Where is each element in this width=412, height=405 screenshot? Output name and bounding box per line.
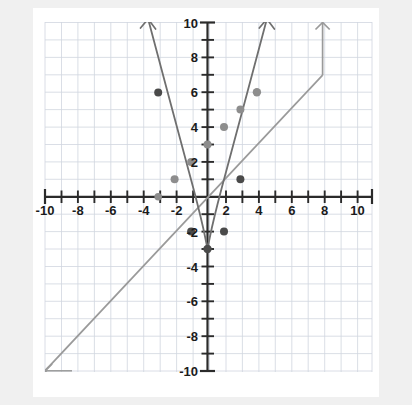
point-line--3-0 [154, 193, 162, 201]
graph-page: -10 -8 -6 -4 -2 2 4 6 8 10 10 8 6 4 2 -2… [0, 0, 412, 405]
x-tick-label-4: 4 [255, 204, 262, 217]
x-tick-label--6: -6 [105, 204, 117, 217]
x-tick-label--8: -8 [72, 204, 84, 217]
x-tick-label--2: -2 [171, 204, 183, 217]
y-tick-label--6: -6 [172, 295, 198, 308]
y-tick-label--10: -10 [168, 365, 198, 378]
series-line [45, 23, 330, 378]
y-tick-label--2: -2 [172, 225, 198, 238]
point-line-1-4 [220, 123, 228, 131]
point-line-2-5 [236, 106, 244, 114]
parabola-arrow-right [259, 19, 274, 29]
point-parabola--3-6 [154, 88, 162, 96]
y-tick-label--4: -4 [172, 260, 198, 273]
point-line-0-3 [204, 141, 212, 149]
point-intersection-3-6 [253, 88, 261, 96]
point-parabola-1--2 [220, 228, 228, 236]
point-line--2-1 [171, 175, 179, 183]
y-tick-label-10: 10 [172, 16, 198, 29]
y-tick-label-8: 8 [172, 51, 198, 64]
x-tick-label-10: 10 [350, 204, 364, 217]
x-tick-label--4: -4 [138, 204, 150, 217]
point-parabola-0--3 [203, 245, 211, 253]
x-tick-label-6: 6 [288, 204, 295, 217]
y-tick-label-6: 6 [172, 86, 198, 99]
parabola-arrow-left [141, 19, 156, 29]
y-tick-label-4: 4 [172, 121, 198, 134]
point-parabola-2-1 [236, 175, 244, 183]
x-tick-label-8: 8 [321, 204, 328, 217]
x-tick-label-2: 2 [222, 204, 229, 217]
x-tick-label--10: -10 [36, 204, 55, 217]
y-tick-label-2: 2 [172, 155, 198, 168]
y-tick-label--8: -8 [172, 330, 198, 343]
